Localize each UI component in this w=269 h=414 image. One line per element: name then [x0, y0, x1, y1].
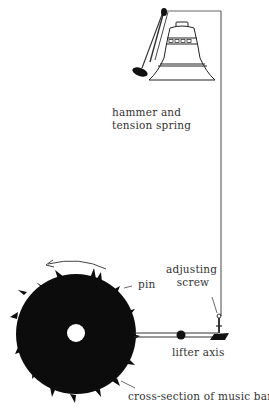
adjusting-label-line1: adjusting: [166, 263, 212, 276]
lifter-axis-label: lifter axis: [172, 346, 225, 359]
hammer-label: hammer and tension spring: [112, 106, 191, 132]
pin-label: pin: [138, 278, 155, 291]
rotation-arrow-icon: [46, 260, 106, 269]
adjusting-screw-label: adjusting screw: [166, 263, 212, 289]
barrel-label: cross-section of music barrel: [128, 390, 269, 403]
music-barrel: [10, 268, 140, 403]
adjusting-screw-icon: [216, 314, 222, 333]
lifter-axis-icon: [177, 331, 186, 340]
adjusting-label-line2: screw: [166, 276, 212, 289]
hammer-label-line2: tension spring: [112, 119, 191, 132]
mechanism-diagram: [0, 0, 269, 414]
lifter-arm: [134, 331, 229, 341]
hammer-label-line1: hammer and: [112, 106, 191, 119]
